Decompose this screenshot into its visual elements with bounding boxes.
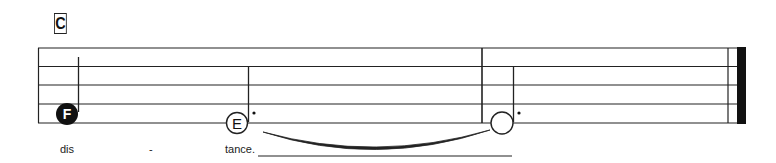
augmentation-dot xyxy=(252,111,255,114)
lyric-hyphen: - xyxy=(149,143,153,155)
final-barline-thick xyxy=(737,47,746,124)
note-letter: F xyxy=(63,106,72,122)
lyric-syllable-tance: tance. xyxy=(225,143,255,155)
note-f: F xyxy=(56,57,79,125)
tie xyxy=(263,130,490,150)
note-head xyxy=(491,112,513,134)
lyric-syllable-dis: dis xyxy=(60,143,74,155)
staff-lines xyxy=(38,48,746,123)
note-tied xyxy=(491,66,521,134)
note-letter: E xyxy=(232,115,242,132)
music-staff: F E xyxy=(0,0,776,163)
augmentation-dot xyxy=(517,111,520,114)
